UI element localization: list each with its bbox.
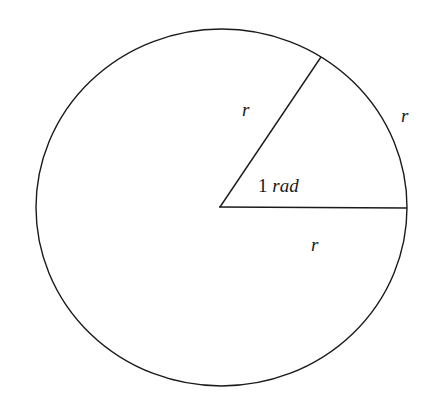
diagram-canvas: [0, 0, 437, 417]
radius-horizontal: [219, 207, 407, 208]
label-angle: 1 rad: [258, 176, 299, 195]
label-arc-length: r: [401, 106, 408, 125]
angle-value: 1: [258, 175, 268, 196]
label-radius-angled: r: [242, 100, 249, 119]
label-radius-horizontal: r: [311, 235, 318, 254]
angle-unit: rad: [272, 175, 298, 196]
radian-diagram: r r r 1 rad: [0, 0, 437, 417]
